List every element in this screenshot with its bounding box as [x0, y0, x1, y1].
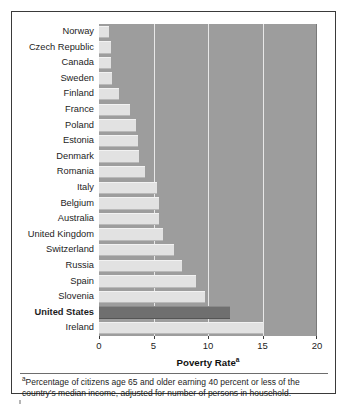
x-tick-mark-10 — [208, 336, 209, 339]
bar-finland — [99, 88, 119, 100]
x-tick-mark-5 — [154, 336, 155, 339]
category-label-russia: Russia — [66, 258, 94, 274]
bar-row — [99, 102, 317, 118]
x-tick-mark-0 — [99, 336, 100, 339]
bar-russia — [99, 260, 182, 272]
bar-row — [99, 24, 317, 40]
category-axis-labels: NorwayCzech RepublicCanadaSwedenFinlandF… — [12, 24, 97, 336]
category-label-estonia: Estonia — [63, 133, 94, 149]
bar-italy — [99, 182, 157, 194]
bar-switzerland — [99, 244, 174, 256]
poverty-rate-bar-chart-figure: NorwayCzech RepublicCanadaSwedenFinlandF… — [0, 0, 347, 411]
bar-row — [99, 227, 317, 243]
category-label-switzerland: Switzerland — [46, 242, 94, 258]
x-axis-title-text: Poverty Rate — [177, 357, 236, 368]
bar-australia — [99, 213, 159, 225]
x-axis-title-superscript: a — [236, 356, 240, 363]
bar-row — [99, 274, 317, 290]
scan-artifact — [19, 400, 21, 404]
bar-united-states — [99, 306, 230, 318]
bar-czech-republic — [99, 41, 111, 53]
category-label-united-kingdom: United Kingdom — [28, 227, 94, 243]
bar-row — [99, 71, 317, 87]
category-label-sweden: Sweden — [60, 71, 94, 87]
bar-row — [99, 180, 317, 196]
bar-spain — [99, 275, 196, 287]
bar-row — [99, 211, 317, 227]
footnote-text: Percentage of citizens age 65 and older … — [22, 377, 300, 398]
category-label-denmark: Denmark — [56, 149, 94, 165]
bar-canada — [99, 57, 111, 69]
bar-belgium — [99, 197, 159, 209]
x-tick-mark-20 — [316, 336, 317, 339]
bar-norway — [99, 26, 109, 38]
bar-row — [99, 86, 317, 102]
bar-france — [99, 104, 130, 116]
bar-row — [99, 40, 317, 56]
category-label-finland: Finland — [64, 86, 95, 102]
plot-area-wrapper — [99, 24, 317, 336]
category-label-belgium: Belgium — [60, 196, 94, 212]
category-label-spain: Spain — [70, 274, 94, 290]
bar-row — [99, 133, 317, 149]
category-label-ireland: Ireland — [66, 320, 94, 336]
x-axis: 05101520 — [99, 336, 317, 356]
bar-row — [99, 258, 317, 274]
bar-row — [99, 149, 317, 165]
x-tick-label-20: 20 — [312, 340, 323, 351]
category-label-czech-republic: Czech Republic — [29, 40, 94, 56]
footnote: aPercentage of citizens age 65 and older… — [22, 377, 327, 399]
bar-estonia — [99, 135, 138, 147]
x-tick-label-0: 0 — [96, 340, 101, 351]
bar-row — [99, 289, 317, 305]
bar-denmark — [99, 150, 139, 162]
bar-series — [99, 24, 317, 336]
category-label-canada: Canada — [61, 55, 94, 71]
category-label-slovenia: Slovenia — [58, 289, 94, 305]
category-label-australia: Australia — [58, 211, 94, 227]
bar-row — [99, 164, 317, 180]
bar-row — [99, 118, 317, 134]
bar-slovenia — [99, 291, 205, 303]
bar-sweden — [99, 72, 112, 84]
category-label-italy: Italy — [77, 180, 94, 196]
bar-row — [99, 242, 317, 258]
category-label-united-states: United States — [35, 305, 94, 321]
bar-united-kingdom — [99, 228, 163, 240]
bar-row — [99, 55, 317, 71]
category-label-poland: Poland — [65, 118, 94, 134]
category-label-romania: Romania — [57, 164, 94, 180]
x-axis-title: Poverty Ratea — [99, 357, 317, 368]
bar-romania — [99, 166, 145, 178]
x-tick-label-5: 5 — [151, 340, 156, 351]
footnote-divider — [20, 373, 328, 374]
bar-poland — [99, 119, 136, 131]
category-label-france: France — [65, 102, 94, 118]
figure-frame: NorwayCzech RepublicCanadaSwedenFinlandF… — [11, 11, 336, 394]
bar-row — [99, 196, 317, 212]
bar-row — [99, 320, 317, 336]
x-tick-label-15: 15 — [257, 340, 268, 351]
x-tick-mark-15 — [263, 336, 264, 339]
category-label-norway: Norway — [62, 24, 94, 40]
bar-ireland — [99, 322, 263, 334]
bar-row — [99, 305, 317, 321]
x-tick-label-10: 10 — [203, 340, 214, 351]
